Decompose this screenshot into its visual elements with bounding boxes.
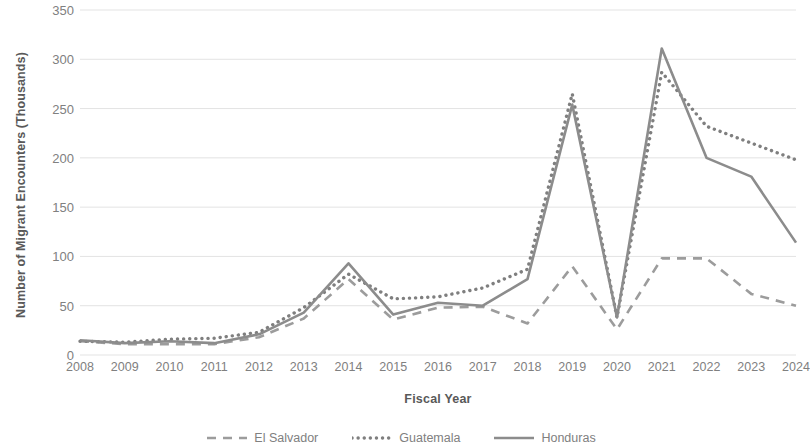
x-tick-label: 2010 [156,360,184,374]
series-line [80,48,796,343]
legend-swatch-dashed [207,433,247,443]
legend-item[interactable]: El Salvador [207,431,318,445]
series-line [80,258,796,344]
legend-swatch-solid [494,433,534,443]
x-tick-label: 2013 [290,360,318,374]
x-tick-label: 2018 [514,360,542,374]
x-tick-label: 2019 [558,360,586,374]
legend-swatch-dotted [352,433,392,443]
y-tick-label: 50 [60,298,74,313]
x-tick-label: 2009 [111,360,139,374]
y-axis-tick-labels: 050100150200250300350 [28,0,74,360]
x-tick-label: 2015 [379,360,407,374]
legend-item[interactable]: Honduras [494,431,595,445]
legend-label: Guatemala [399,431,460,445]
x-tick-label: 2020 [603,360,631,374]
x-axis-tick-labels: 2008200920102011201220132014201520162017… [80,360,796,380]
x-tick-label: 2024 [782,360,810,374]
x-axis-title: Fiscal Year [80,392,796,406]
x-tick-label: 2008 [66,360,94,374]
y-tick-label: 250 [52,101,74,116]
y-tick-label: 300 [52,52,74,67]
x-tick-label: 2017 [469,360,497,374]
x-tick-label: 2021 [648,360,676,374]
y-tick-label: 100 [52,249,74,264]
x-tick-label: 2014 [335,360,363,374]
x-tick-label: 2022 [693,360,721,374]
legend-label: El Salvador [254,431,318,445]
y-tick-label: 200 [52,150,74,165]
x-tick-label: 2023 [737,360,765,374]
legend-label: Honduras [541,431,595,445]
plot-area [80,10,796,355]
chart-legend: El SalvadorGuatemalaHonduras [0,428,803,448]
y-tick-label: 150 [52,200,74,215]
x-tick-label: 2011 [201,360,228,374]
x-tick-label: 2016 [424,360,452,374]
legend-item[interactable]: Guatemala [352,431,460,445]
y-axis-title: Number of Migrant Encounters (Thousands) [14,30,28,340]
y-tick-label: 350 [52,3,74,18]
plot-svg [80,10,796,355]
x-tick-label: 2012 [245,360,273,374]
series-lines [80,48,796,344]
